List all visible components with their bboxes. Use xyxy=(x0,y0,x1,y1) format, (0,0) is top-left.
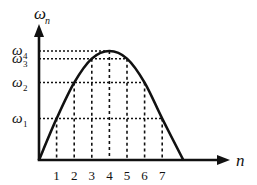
axes xyxy=(34,24,230,165)
x-tick-label: 3 xyxy=(89,168,96,183)
chart: 1234567 ω1ω2ω3ω4 ω n n xyxy=(0,0,257,185)
x-tick-label: 7 xyxy=(159,168,166,183)
x-tick-label: 1 xyxy=(53,168,60,183)
y-level-label-ω4: ω xyxy=(12,42,23,58)
y-axis-label-subscript: n xyxy=(45,15,50,26)
y-level-labels: ω1ω2ω3ω4 xyxy=(12,42,28,129)
x-tick-labels: 1234567 xyxy=(53,168,166,183)
y-axis-arrow-icon xyxy=(34,24,44,37)
x-axis-arrow-icon xyxy=(217,155,230,165)
y-level-label-ω1: ω xyxy=(12,110,23,126)
y-level-subscript-ω4: 4 xyxy=(23,51,28,61)
x-axis-label: n xyxy=(236,151,245,170)
x-tick-label: 4 xyxy=(106,168,113,183)
guide-lines xyxy=(39,51,162,160)
y-level-subscript-ω1: 1 xyxy=(23,119,28,129)
y-level-subscript-ω2: 2 xyxy=(23,83,28,93)
x-tick-label: 5 xyxy=(124,168,131,183)
x-tick-label: 6 xyxy=(141,168,148,183)
x-tick-label: 2 xyxy=(71,168,78,183)
y-level-label-ω2: ω xyxy=(12,74,23,90)
